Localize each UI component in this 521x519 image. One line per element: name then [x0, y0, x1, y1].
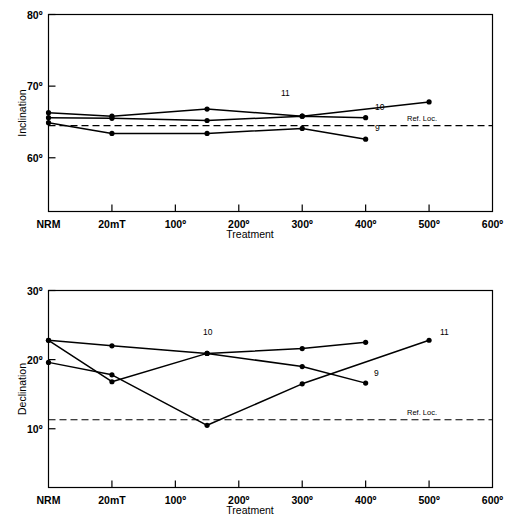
- x-axis-tick-label: NRM: [37, 218, 61, 230]
- figure-container: 80º70º60º NRM20mT100º200º300º400º500º600…: [0, 0, 521, 519]
- x-axis-ticks: [112, 205, 429, 212]
- plot-frame: [49, 291, 493, 488]
- data-point: [300, 114, 305, 119]
- data-point: [204, 106, 209, 111]
- y-axis-tick-label: 80º: [27, 9, 43, 21]
- series-label-10: 10: [375, 102, 385, 112]
- x-axis-tick-label: 400º: [355, 218, 377, 230]
- y-axis-tick-label: 10º: [27, 423, 43, 435]
- series-line-11: [49, 340, 430, 425]
- data-point: [300, 126, 305, 131]
- x-axis-tick-label: 500º: [418, 218, 440, 230]
- series-label-11: 11: [440, 327, 449, 337]
- y-axis-tick-label: 20º: [27, 354, 43, 366]
- reference-line-label: Ref. Loc.: [407, 408, 437, 417]
- x-axis-tick-label: 400º: [355, 494, 377, 506]
- x-axis-tick-label: 500º: [418, 494, 440, 506]
- data-point: [363, 115, 368, 120]
- data-series-group: [46, 99, 432, 141]
- y-axis-ticks: [49, 291, 56, 429]
- data-point: [46, 120, 51, 125]
- x-axis-tick-label: 300º: [292, 494, 314, 506]
- data-point: [204, 131, 209, 136]
- series-line-11: [49, 102, 430, 116]
- series-label-11: 11: [281, 88, 290, 98]
- data-point: [300, 381, 305, 386]
- data-point: [363, 381, 368, 386]
- data-point: [204, 118, 209, 123]
- data-point: [300, 346, 305, 351]
- x-axis-title: Treatment: [226, 228, 274, 240]
- series-end-labels: 91011: [281, 88, 385, 133]
- data-point: [426, 99, 431, 104]
- series-label-9: 9: [375, 123, 380, 133]
- x-axis-tick-label: 100º: [165, 218, 187, 230]
- series-label-10: 10: [203, 327, 213, 337]
- y-axis-tick-label: 60º: [27, 152, 43, 164]
- y-axis-title: Declination: [16, 363, 28, 415]
- data-point: [109, 114, 114, 119]
- x-axis-tick-label: 300º: [292, 218, 314, 230]
- x-axis-tick-label: 600º: [482, 218, 504, 230]
- declination-chart: 30º20º10º NRM20mT100º200º300º400º500º600…: [0, 260, 521, 519]
- x-axis-tick-label: 600º: [482, 494, 504, 506]
- data-point: [109, 131, 114, 136]
- data-point: [46, 115, 51, 120]
- y-axis-tick-labels: 80º70º60º: [27, 9, 43, 164]
- chart-panel-declination: 30º20º10º NRM20mT100º200º300º400º500º600…: [0, 260, 521, 519]
- chart-panel-inclination: 80º70º60º NRM20mT100º200º300º400º500º600…: [0, 0, 521, 260]
- data-point: [204, 423, 209, 428]
- y-axis-tick-label: 70º: [27, 80, 43, 92]
- y-axis-tick-label: 30º: [27, 285, 43, 297]
- series-end-labels: 91011: [203, 327, 449, 378]
- data-point: [109, 343, 114, 348]
- data-point: [109, 372, 114, 377]
- y-axis-title: Inclination: [16, 89, 28, 136]
- series-label-9: 9: [374, 368, 379, 378]
- reference-line-group: Ref. Loc.: [49, 408, 493, 420]
- data-point: [109, 379, 114, 384]
- x-axis-tick-label: NRM: [37, 494, 61, 506]
- data-point: [204, 351, 209, 356]
- data-point: [300, 364, 305, 369]
- x-axis-title: Treatment: [226, 504, 274, 516]
- data-series-group: [46, 338, 432, 428]
- data-point: [363, 137, 368, 142]
- data-point: [46, 110, 51, 115]
- data-point: [46, 338, 51, 343]
- x-axis-tick-label: 20mT: [98, 494, 126, 506]
- data-point: [426, 338, 431, 343]
- data-point: [363, 340, 368, 345]
- y-axis-tick-labels: 30º20º10º: [27, 285, 43, 435]
- inclination-chart: 80º70º60º NRM20mT100º200º300º400º500º600…: [0, 0, 521, 260]
- y-axis-ticks: [49, 15, 56, 158]
- x-axis-tick-label: 100º: [165, 494, 187, 506]
- x-axis-tick-label: 20mT: [98, 218, 126, 230]
- data-point: [46, 360, 51, 365]
- x-axis-ticks: [112, 481, 429, 488]
- reference-line-label: Ref. Loc.: [407, 114, 437, 123]
